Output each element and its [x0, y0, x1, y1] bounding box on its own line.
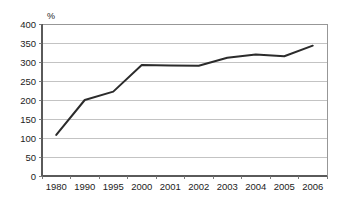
x-axis-tick-label: 1995	[103, 181, 124, 192]
x-axis-tick-label: 2003	[217, 181, 238, 192]
y-axis-tick-label: 400	[20, 19, 36, 30]
y-axis-tick-label: 250	[20, 76, 36, 87]
y-axis-tick-label: 150	[20, 114, 36, 125]
y-axis-tick-label: 50	[25, 152, 36, 163]
chart-background	[0, 0, 337, 203]
y-axis-tick-label: 300	[20, 57, 36, 68]
y-axis-unit-label: %	[47, 11, 55, 21]
y-axis-tick-label: 100	[20, 133, 36, 144]
x-axis-tick-label: 2000	[131, 181, 152, 192]
x-axis-tick-label: 2006	[302, 181, 323, 192]
line-chart: 050100150200250300350400 198019901995200…	[0, 0, 337, 203]
y-axis-tick-label: 350	[20, 38, 36, 49]
x-axis-tick-label: 2005	[274, 181, 295, 192]
x-axis-tick-label: 2004	[245, 181, 266, 192]
chart-canvas: 050100150200250300350400 198019901995200…	[0, 0, 337, 203]
y-axis-tick-label: 200	[20, 95, 36, 106]
x-axis-tick-label: 2002	[188, 181, 209, 192]
x-axis-tick-label: 1980	[46, 181, 67, 192]
y-axis-tick-label: 0	[31, 171, 36, 182]
x-axis-tick-label: 2001	[160, 181, 181, 192]
x-axis-tick-label: 1990	[74, 181, 95, 192]
